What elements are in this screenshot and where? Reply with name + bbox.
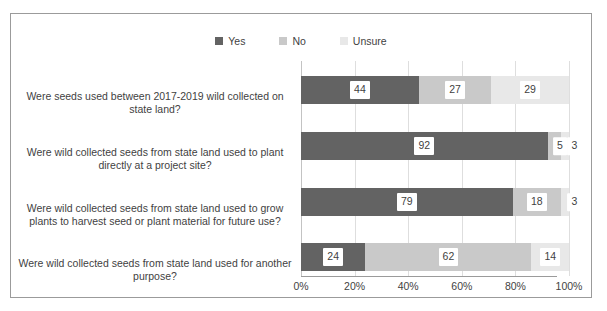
bar-segment-yes: 24 <box>301 243 365 271</box>
gridline-100 <box>569 61 570 276</box>
legend-item-no: No <box>279 36 305 47</box>
bar-segment-yes: 92 <box>301 132 548 160</box>
bar-segment-unsure: 14 <box>531 243 569 271</box>
data-label: 79 <box>397 193 417 211</box>
bar-row: 442729 <box>301 76 569 104</box>
legend-item-unsure: Unsure <box>340 36 387 47</box>
legend-swatch-yes <box>215 37 223 45</box>
data-label: 62 <box>439 248 459 266</box>
data-label: 5 <box>553 137 567 155</box>
x-axis-tick-label: 100% <box>556 280 583 292</box>
bar-row: 246214 <box>301 243 569 271</box>
bar-segment-yes: 79 <box>301 188 513 216</box>
data-label: 3 <box>568 193 582 211</box>
legend-swatch-unsure <box>340 37 348 45</box>
x-axis-tick-label: 40% <box>398 280 419 292</box>
bar-row: 79183 <box>301 188 569 216</box>
data-label: 27 <box>445 81 465 99</box>
category-label: Were seeds used between 2017-2019 wild c… <box>15 90 295 117</box>
x-axis-tick-label: 20% <box>344 280 365 292</box>
data-label: 24 <box>323 248 343 266</box>
chart-container: Yes No Unsure Were seeds used between 20… <box>10 13 592 298</box>
data-label: 44 <box>350 81 370 99</box>
x-axis-tick-label: 60% <box>451 280 472 292</box>
bar-track: 9253 <box>301 132 569 160</box>
bar-segment-no: 62 <box>365 243 531 271</box>
data-label: 92 <box>414 137 434 155</box>
bar-track: 442729 <box>301 76 569 104</box>
bar-segment-no: 5 <box>548 132 561 160</box>
category-label: Were wild collected seeds from state lan… <box>15 146 295 173</box>
bar-segment-unsure: 3 <box>561 188 569 216</box>
legend-label-no: No <box>292 36 305 47</box>
bar-segment-no: 27 <box>419 76 491 104</box>
plot-area: 442729925379183246214 <box>301 61 569 276</box>
bar-row: 9253 <box>301 132 569 160</box>
bar-segment-unsure: 29 <box>491 76 569 104</box>
data-label: 14 <box>540 248 560 266</box>
legend-swatch-no <box>279 37 287 45</box>
bar-track: 246214 <box>301 243 569 271</box>
bar-segment-yes: 44 <box>301 76 419 104</box>
legend-item-yes: Yes <box>215 36 245 47</box>
bar-track: 79183 <box>301 188 569 216</box>
legend-label-yes: Yes <box>228 36 245 47</box>
x-axis-tick-label: 0% <box>293 280 308 292</box>
x-axis-tick-label: 80% <box>505 280 526 292</box>
data-label: 3 <box>568 137 582 155</box>
data-label: 29 <box>520 81 540 99</box>
data-label: 18 <box>527 193 547 211</box>
x-axis-line <box>301 276 557 277</box>
bar-segment-no: 18 <box>513 188 561 216</box>
category-label: Were wild collected seeds from state lan… <box>15 257 295 284</box>
legend-label-unsure: Unsure <box>353 36 387 47</box>
category-label: Were wild collected seeds from state lan… <box>15 202 295 229</box>
chart-legend: Yes No Unsure <box>11 36 591 47</box>
